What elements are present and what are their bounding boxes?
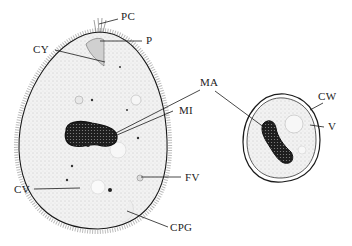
label-p: P [146,35,152,46]
cyst [243,94,320,182]
label-cw: CW [318,91,336,102]
label-ma: MA [200,77,218,88]
label-cpg: CPG [170,222,192,233]
cyst-vacuole [285,115,303,133]
label-cv: CV [14,184,30,195]
micronucleus [86,143,90,147]
label-mi: MI [179,105,193,116]
label-cy: CY [33,44,49,55]
label-pc: PC [121,11,135,22]
label-fv: FV [185,172,200,183]
diagram-canvas [0,0,352,246]
cyst-wall-inner [247,98,316,178]
label-v: V [328,121,336,132]
